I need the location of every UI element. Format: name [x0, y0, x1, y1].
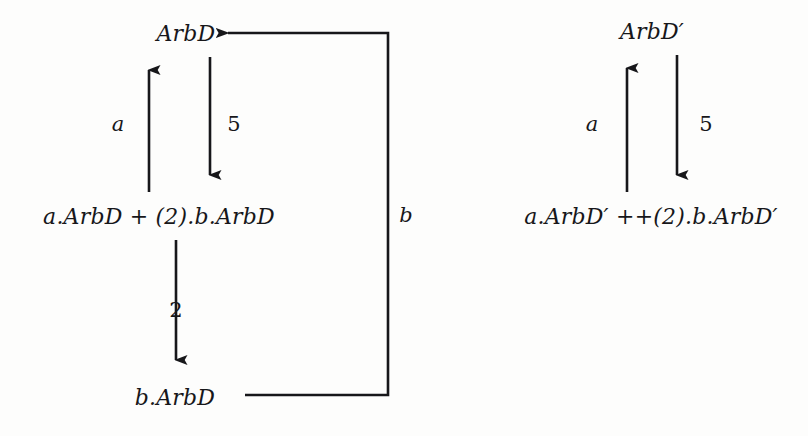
edge-label-b-left: b [399, 203, 412, 227]
edge-label-5-right: 5 [699, 112, 712, 136]
node-sum-prime: a.ArbD′ ++(2).b.ArbD′ [524, 204, 778, 229]
node-sum: a.ArbD + (2).b.ArbD [43, 204, 275, 229]
node-arbd: ArbD [157, 21, 216, 46]
node-arbd-prime: ArbD′ [620, 19, 684, 44]
edge-label-a-right: a [586, 112, 599, 136]
edge-label-a-left: a [112, 112, 125, 136]
figure-canvas: ArbD a.ArbD + (2).b.ArbD b.ArbD a 5 2 b … [0, 0, 808, 436]
node-b-arbd: b.ArbD [135, 385, 215, 410]
edge-label-5-left: 5 [227, 112, 240, 136]
edge-label-2-left: 2 [169, 298, 182, 322]
